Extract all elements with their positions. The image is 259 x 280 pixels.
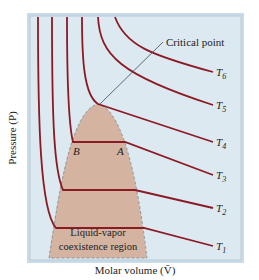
y-axis-label: Pressure (P) <box>6 111 19 165</box>
point-b-label: B <box>73 145 80 157</box>
x-axis-label: Molar volume (V̄) <box>95 264 176 277</box>
point-a-label: A <box>116 145 124 157</box>
pv-diagram: Critical point B A Liquid-vapor coexiste… <box>0 0 259 280</box>
critical-point-label: Critical point <box>166 36 224 48</box>
region-label-line2: coexistence region <box>59 241 138 252</box>
region-label-line1: Liquid-vapor <box>70 227 126 238</box>
